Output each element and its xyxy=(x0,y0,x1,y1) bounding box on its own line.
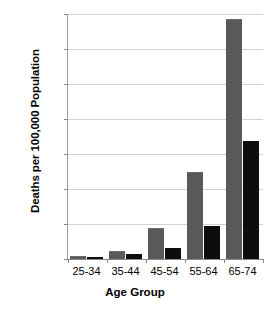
bar-group xyxy=(146,14,185,259)
bar-series-1-25-34 xyxy=(70,256,86,259)
bar-group xyxy=(224,14,263,259)
bar-series-1-35-44 xyxy=(109,251,125,259)
plot-area xyxy=(67,14,262,259)
bar-chart: Deaths per 100,000 Population Age Group … xyxy=(0,0,270,310)
bar-series-1-45-54 xyxy=(148,228,164,259)
bar-series-2-45-54 xyxy=(165,248,181,259)
bar-series-2-65-74 xyxy=(243,141,259,259)
bar-series-1-65-74 xyxy=(226,19,242,259)
x-axis-tick-mark xyxy=(185,259,186,263)
x-axis-tick-label-65-74: 65-74 xyxy=(220,265,266,277)
x-axis-title: Age Group xyxy=(0,286,270,298)
y-axis-title: Deaths per 100,000 Population xyxy=(29,26,41,236)
bar-series-2-35-44 xyxy=(126,254,142,259)
bar-group xyxy=(107,14,146,259)
x-axis-tick-mark xyxy=(107,259,108,263)
bar-series-2-25-34 xyxy=(87,257,103,259)
bar-group xyxy=(185,14,224,259)
x-axis-tick-mark xyxy=(68,259,69,263)
x-axis-tick-mark xyxy=(146,259,147,263)
x-axis-tick-mark xyxy=(263,259,264,263)
bar-group xyxy=(68,14,107,259)
x-axis-tick-mark xyxy=(224,259,225,263)
bar-series-1-55-64 xyxy=(187,172,203,260)
bar-series-2-55-64 xyxy=(204,226,220,259)
